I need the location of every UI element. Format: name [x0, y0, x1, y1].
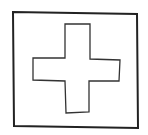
cross-in-square-figure	[0, 0, 148, 135]
cross-outline	[33, 24, 120, 113]
